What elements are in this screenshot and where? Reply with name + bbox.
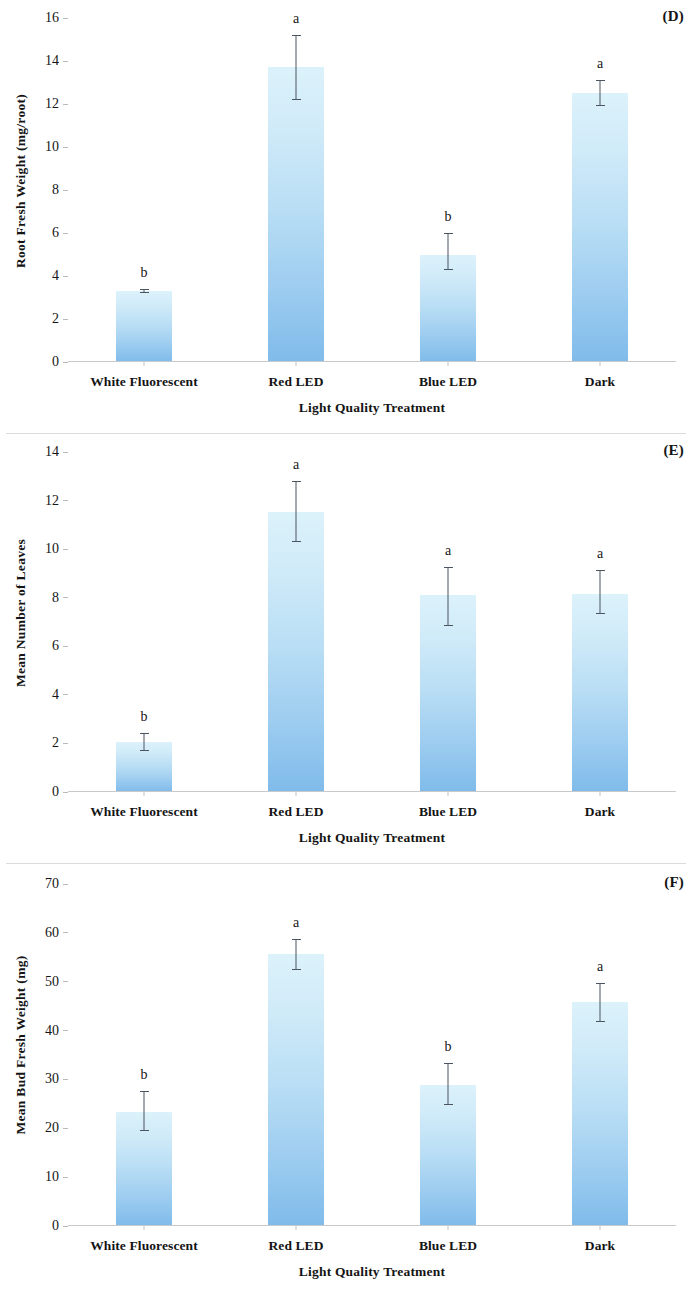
- error-bar: [600, 80, 601, 106]
- significance-letter: a: [597, 959, 603, 975]
- bar-slot: b: [68, 18, 220, 362]
- x-category-label: Blue LED: [372, 1238, 524, 1254]
- y-tick-label: 14: [45, 444, 59, 460]
- error-bar-cap-top: [292, 481, 301, 482]
- figure-panels-def: (D) Root Fresh Weight (mg/root) 02468101…: [0, 0, 692, 1297]
- error-bar: [296, 481, 297, 542]
- y-axis-title-f: Mean Bud Fresh Weight (mg): [10, 864, 32, 1226]
- bar: [420, 255, 476, 363]
- y-tick-label: 6: [52, 638, 59, 654]
- plot-inner-d: 0246810121416 baba: [68, 18, 676, 362]
- bar: [420, 1085, 476, 1226]
- y-tick-label: 4: [52, 687, 59, 703]
- error-bar-cap-top: [596, 80, 605, 81]
- x-category-label: Red LED: [220, 804, 372, 820]
- error-bar: [448, 567, 449, 625]
- plot-area-e: 02468101214 baaa: [68, 452, 676, 792]
- plot-area-d: 0246810121416 baba: [68, 18, 676, 362]
- y-tick-label: 0: [52, 354, 59, 370]
- x-tick-mark: [296, 1226, 297, 1230]
- x-category-label: Red LED: [220, 374, 372, 390]
- y-tick-label: 2: [52, 735, 59, 751]
- bar-slot: b: [68, 452, 220, 792]
- significance-letter: a: [293, 11, 299, 27]
- bar: [572, 93, 628, 362]
- error-bar: [448, 1063, 449, 1105]
- significance-letter: b: [445, 1039, 452, 1055]
- bar: [268, 67, 324, 362]
- y-tick-label: 12: [45, 493, 59, 509]
- error-bar-cap-bottom: [596, 613, 605, 614]
- x-tick-mark: [144, 792, 145, 796]
- significance-letter: b: [141, 265, 148, 281]
- error-bar-cap-top: [140, 289, 149, 290]
- x-tick-mark: [600, 362, 601, 366]
- bar-slot: a: [220, 18, 372, 362]
- x-axis-title-e: Light Quality Treatment: [68, 830, 676, 846]
- bar-slot: a: [524, 18, 676, 362]
- x-axis-line-d: [68, 361, 676, 362]
- y-axis-title-text-d: Root Fresh Weight (mg/root): [13, 94, 29, 268]
- significance-letter: a: [293, 457, 299, 473]
- x-category-label: Dark: [524, 374, 676, 390]
- x-tick-mark: [448, 362, 449, 366]
- error-bar-cap-top: [140, 733, 149, 734]
- error-bar-cap-top: [444, 1063, 453, 1064]
- y-axis-title-text-f: Mean Bud Fresh Weight (mg): [13, 955, 29, 1134]
- y-tick-label: 60: [45, 925, 59, 941]
- bar-group-e: baaa: [68, 452, 676, 792]
- panel-e: (E) Mean Number of Leaves 02468101214 ba…: [0, 434, 692, 864]
- error-bar-cap-top: [444, 233, 453, 234]
- y-tick-label: 8: [52, 182, 59, 198]
- bar-slot: a: [220, 884, 372, 1226]
- error-bar-cap-bottom: [444, 625, 453, 626]
- x-category-label: Dark: [524, 1238, 676, 1254]
- y-axis-title-text-e: Mean Number of Leaves: [13, 539, 29, 687]
- plot-inner-f: 010203040506070 baba: [68, 884, 676, 1226]
- x-category-label: Dark: [524, 804, 676, 820]
- bar-slot: a: [524, 884, 676, 1226]
- error-bar: [448, 233, 449, 270]
- x-axis-line-e: [68, 791, 676, 792]
- y-axis-title-d: Root Fresh Weight (mg/root): [10, 0, 32, 362]
- bar-slot: b: [372, 884, 524, 1226]
- error-bar-cap-top: [444, 567, 453, 568]
- bar-slot: b: [68, 884, 220, 1226]
- y-tick-label: 50: [45, 974, 59, 990]
- x-tick-mark: [296, 792, 297, 796]
- plot-inner-e: 02468101214 baaa: [68, 452, 676, 792]
- significance-letter: a: [445, 543, 451, 559]
- error-bar-cap-top: [292, 939, 301, 940]
- y-tick-label: 8: [52, 590, 59, 606]
- error-bar-cap-top: [596, 983, 605, 984]
- panel-d: (D) Root Fresh Weight (mg/root) 02468101…: [0, 0, 692, 434]
- x-tick-mark: [448, 1226, 449, 1230]
- error-bar-cap-bottom: [292, 99, 301, 100]
- y-axis-title-e: Mean Number of Leaves: [10, 434, 32, 792]
- x-axis-categories-d: White FluorescentRed LEDBlue LEDDark: [68, 374, 676, 390]
- error-bar-cap-top: [140, 1091, 149, 1092]
- y-tick-label: 70: [45, 876, 59, 892]
- x-tick-mark: [448, 792, 449, 796]
- significance-letter: a: [293, 915, 299, 931]
- y-tick-label: 12: [45, 96, 59, 112]
- x-category-label: White Fluorescent: [68, 374, 220, 390]
- x-category-label: White Fluorescent: [68, 804, 220, 820]
- bar-slot: a: [220, 452, 372, 792]
- y-tick-label: 30: [45, 1071, 59, 1087]
- error-bar-cap-bottom: [444, 269, 453, 270]
- x-category-label: Red LED: [220, 1238, 372, 1254]
- error-bar-cap-bottom: [292, 541, 301, 542]
- y-tick-label: 2: [52, 311, 59, 327]
- y-tick-label: 10: [45, 1169, 59, 1185]
- significance-letter: b: [141, 709, 148, 725]
- y-tick-label: 20: [45, 1120, 59, 1136]
- error-bar: [144, 289, 145, 293]
- bar-group-d: baba: [68, 18, 676, 362]
- significance-letter: a: [597, 546, 603, 562]
- bar: [572, 594, 628, 792]
- plot-area-f: 010203040506070 baba: [68, 884, 676, 1226]
- x-category-label: Blue LED: [372, 374, 524, 390]
- error-bar: [144, 733, 145, 751]
- bar-group-f: baba: [68, 884, 676, 1226]
